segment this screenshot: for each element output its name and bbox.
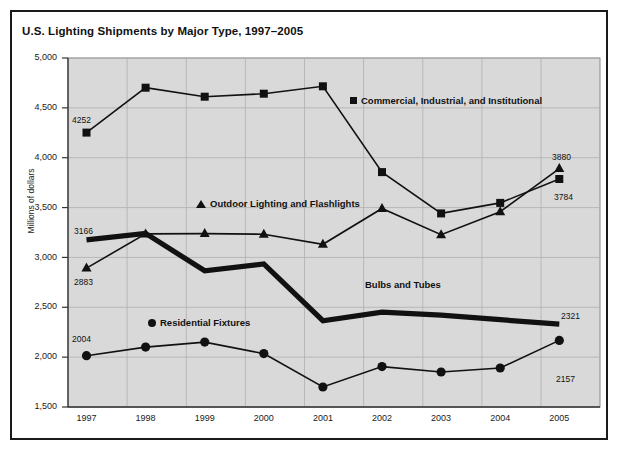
y-tick-5000: 5,000	[13, 52, 57, 62]
legend-residential: Residential Fixtures	[148, 317, 250, 328]
legend-commercial-label: Commercial, Industrial, and Institutiona…	[361, 95, 542, 106]
x-tick-2004: 2004	[475, 413, 525, 423]
value-label-bulbs-1997: 3166	[74, 226, 93, 236]
x-tick-2005: 2005	[534, 413, 584, 423]
y-tick-3000: 3,000	[13, 252, 57, 262]
y-tick-4000: 4,000	[13, 152, 57, 162]
x-tick-2002: 2002	[357, 413, 407, 423]
legend-bulbs-label: Bulbs and Tubes	[365, 279, 441, 290]
x-tick-1998: 1998	[121, 413, 171, 423]
value-label-residential-1997: 2004	[72, 334, 91, 344]
y-tick-1500: 1,500	[13, 401, 57, 411]
x-tick-2001: 2001	[298, 413, 348, 423]
triangle-marker-icon	[196, 200, 206, 208]
circle-marker-icon	[148, 319, 156, 327]
value-label-outdoor-2005: 3880	[552, 152, 571, 162]
value-label-commercial-2005: 3784	[554, 192, 573, 202]
y-tick-2000: 2,000	[13, 351, 57, 361]
chart-figure: U.S. Lighting Shipments by Major Type, 1…	[0, 0, 620, 450]
value-label-bulbs-2005: 2321	[561, 311, 580, 321]
value-label-residential-2005: 2157	[556, 374, 575, 384]
value-label-outdoor-1997: 2883	[74, 277, 93, 287]
legend-bulbs: Bulbs and Tubes	[365, 279, 441, 290]
plot-area: 5,000 4,500 4,000 3,500 3,000 2,500 2,00…	[0, 0, 620, 450]
y-tick-3500: 3,500	[13, 202, 57, 212]
y-tick-4500: 4,500	[13, 102, 57, 112]
value-label-commercial-1997: 4252	[72, 115, 91, 125]
x-tick-2000: 2000	[239, 413, 289, 423]
legend-commercial: Commercial, Industrial, and Institutiona…	[350, 95, 542, 106]
y-tick-2500: 2,500	[13, 301, 57, 311]
chart-svg	[0, 0, 620, 450]
x-tick-1997: 1997	[62, 413, 112, 423]
x-tick-2003: 2003	[416, 413, 466, 423]
legend-residential-label: Residential Fixtures	[160, 317, 250, 328]
square-marker-icon	[350, 97, 357, 104]
legend-outdoor: Outdoor Lighting and Flashlights	[196, 198, 360, 209]
x-tick-1999: 1999	[180, 413, 230, 423]
legend-outdoor-label: Outdoor Lighting and Flashlights	[210, 198, 360, 209]
y-tick-marks	[62, 58, 68, 407]
